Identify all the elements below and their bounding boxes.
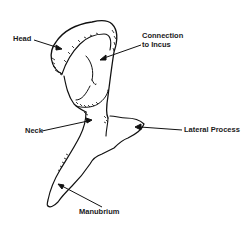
shading: [52, 30, 116, 171]
label-manubrium: Manubrium: [79, 208, 119, 217]
label-connection-to-incus: Connection to Incus: [142, 32, 183, 49]
label-neck: Neck: [25, 127, 43, 136]
label-head: Head: [13, 35, 31, 44]
neck-leader: [42, 121, 88, 131]
facet-line-2: [92, 80, 96, 85]
body-left-edge: [64, 76, 86, 112]
malleus-diagram: Head Connection to Incus Neck Lateral Pr…: [0, 0, 248, 226]
malleus-illustration: [0, 0, 248, 226]
facet-line-3: [76, 86, 90, 100]
facet-line-1: [86, 56, 93, 80]
label-lateral-process: Lateral Process: [184, 126, 240, 135]
lateral-process-leader: [140, 127, 182, 130]
head-outline: [51, 21, 117, 118]
head-inner-outline: [62, 34, 111, 74]
connection-leader: [104, 45, 141, 58]
label-connection-line2: to Incus: [142, 41, 183, 50]
lateral-process-outline: [48, 116, 144, 207]
manubrium-leader: [62, 186, 102, 207]
